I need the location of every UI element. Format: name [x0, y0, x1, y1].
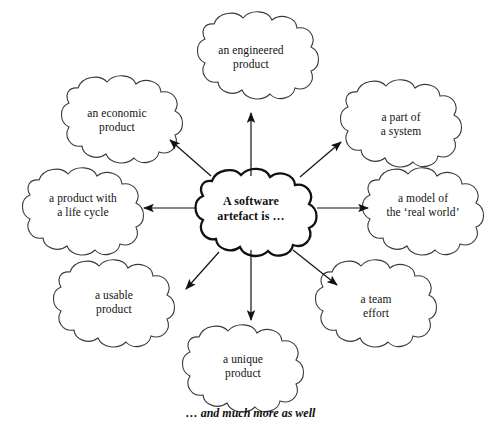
node-part-of-system[interactable]	[341, 80, 462, 167]
node-model-real-world[interactable]	[363, 168, 484, 255]
node-engineered-product[interactable]	[198, 12, 319, 99]
node-life-cycle-product[interactable]	[23, 168, 144, 255]
node-unique-product[interactable]	[183, 325, 304, 412]
diagram-canvas	[0, 0, 501, 439]
arrow-to-part-of-system	[300, 142, 341, 177]
node-economic-product[interactable]	[62, 76, 183, 163]
arrow-to-team-effort	[293, 250, 337, 285]
diagram-caption: … and much more as well	[0, 406, 501, 421]
node-team-effort[interactable]	[316, 260, 437, 347]
node-center-software-artefact[interactable]	[196, 169, 317, 256]
arrow-to-usable-product	[186, 252, 219, 289]
arrow-to-economic-product	[170, 140, 211, 176]
node-usable-product[interactable]	[54, 260, 175, 347]
software-artefact-mind-map: an engineered product an economic produc…	[0, 0, 501, 439]
